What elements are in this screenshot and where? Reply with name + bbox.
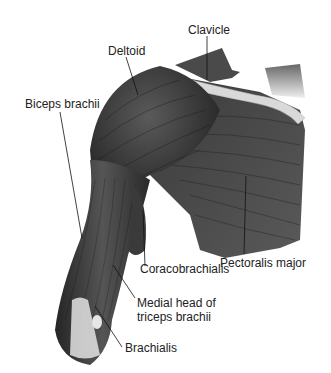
label-medial-head-line2: triceps brachii <box>137 310 211 324</box>
label-coracobrachialis: Coracobrachialis <box>140 262 229 276</box>
label-deltoid: Deltoid <box>108 44 145 58</box>
label-pectoralis-major: Pectoralis major <box>220 256 306 270</box>
label-clavicle: Clavicle <box>188 23 230 37</box>
label-medial-head-line1: Medial head of <box>137 296 216 310</box>
label-biceps-brachii: Biceps brachii <box>25 97 100 111</box>
brachialis-patch <box>92 315 102 329</box>
label-brachialis: Brachialis <box>125 341 177 355</box>
sternal-muscle <box>265 64 305 98</box>
